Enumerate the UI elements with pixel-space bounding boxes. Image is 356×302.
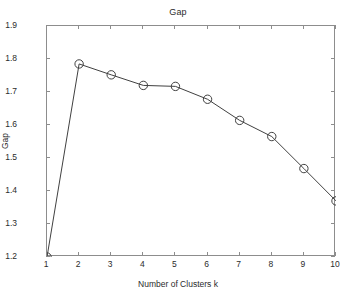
y-axis-tick bbox=[46, 190, 50, 191]
y-axis-tick bbox=[331, 223, 335, 224]
x-axis-tick-label: 7 bbox=[224, 259, 254, 269]
y-axis-tick-label: 1.7 bbox=[0, 86, 17, 96]
x-axis-tick bbox=[207, 252, 208, 256]
y-axis-tick bbox=[46, 58, 50, 59]
x-axis-tick bbox=[303, 25, 304, 29]
gap-line-series bbox=[47, 64, 336, 257]
y-axis-tick bbox=[46, 157, 50, 158]
y-axis-tick-label: 1.6 bbox=[0, 119, 17, 129]
y-axis-title: Gap bbox=[0, 133, 10, 149]
y-axis-tick bbox=[331, 124, 335, 125]
plot-canvas bbox=[47, 26, 336, 257]
x-axis-tick bbox=[78, 25, 79, 29]
x-axis-tick bbox=[174, 25, 175, 29]
y-axis-tick bbox=[331, 157, 335, 158]
y-axis-tick-label: 1.3 bbox=[0, 218, 17, 228]
x-axis-tick bbox=[46, 252, 47, 256]
x-axis-tick bbox=[271, 25, 272, 29]
x-axis-tick-label: 8 bbox=[256, 259, 286, 269]
y-axis-tick-label: 1.2 bbox=[0, 251, 17, 261]
x-axis-tick bbox=[142, 252, 143, 256]
y-axis-tick-label: 1.4 bbox=[0, 185, 17, 195]
x-axis-tick bbox=[335, 25, 336, 29]
y-axis-tick-label: 1.5 bbox=[0, 152, 17, 162]
x-axis-tick-label: 6 bbox=[192, 259, 222, 269]
chart-title: Gap bbox=[0, 7, 356, 17]
y-axis-tick bbox=[331, 256, 335, 257]
y-axis-tick-label: 1.8 bbox=[0, 53, 17, 63]
y-axis-tick bbox=[46, 124, 50, 125]
x-axis-tick-label: 9 bbox=[288, 259, 318, 269]
x-axis-tick bbox=[110, 25, 111, 29]
x-axis-tick-label: 2 bbox=[63, 259, 93, 269]
y-axis-tick bbox=[331, 58, 335, 59]
x-axis-tick bbox=[271, 252, 272, 256]
x-axis-tick bbox=[239, 25, 240, 29]
y-axis-tick-label: 1.9 bbox=[0, 20, 17, 30]
y-axis-tick bbox=[331, 91, 335, 92]
x-axis-tick-label: 5 bbox=[159, 259, 189, 269]
x-axis-title: Number of Clusters k bbox=[0, 279, 356, 289]
x-axis-tick bbox=[46, 25, 47, 29]
x-axis-tick-label: 1 bbox=[31, 259, 61, 269]
x-axis-tick bbox=[142, 25, 143, 29]
x-axis-tick bbox=[303, 252, 304, 256]
plot-area bbox=[46, 25, 335, 256]
gap-data-markers bbox=[47, 60, 336, 257]
y-axis-tick bbox=[46, 256, 50, 257]
x-axis-tick bbox=[239, 252, 240, 256]
x-axis-tick bbox=[174, 252, 175, 256]
y-axis-tick bbox=[46, 91, 50, 92]
x-axis-tick-label: 10 bbox=[320, 259, 350, 269]
x-axis-tick-label: 3 bbox=[95, 259, 125, 269]
x-axis-tick bbox=[78, 252, 79, 256]
gap-statistic-chart: Gap 1.21.31.41.51.61.71.81.9 12345678910… bbox=[0, 0, 356, 302]
x-axis-tick bbox=[335, 252, 336, 256]
x-axis-tick-label: 4 bbox=[127, 259, 157, 269]
x-axis-tick bbox=[110, 252, 111, 256]
y-axis-tick bbox=[46, 223, 50, 224]
y-axis-tick bbox=[331, 190, 335, 191]
x-axis-tick bbox=[207, 25, 208, 29]
